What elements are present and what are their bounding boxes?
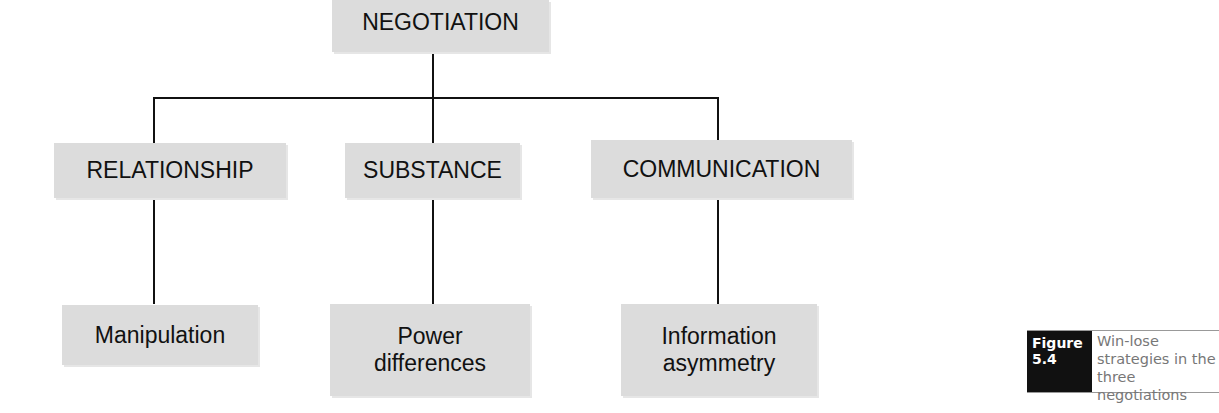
node-communication: COMMUNICATION (591, 140, 852, 198)
node-label: Power differences (355, 323, 505, 377)
node-label: SUBSTANCE (363, 157, 502, 184)
node-power-differences: Power differences (330, 304, 530, 396)
node-label: RELATIONSHIP (87, 157, 254, 184)
substance-connector-bottom (432, 198, 434, 304)
node-label: Information asymmetry (649, 323, 789, 377)
node-label: NEGOTIATION (362, 9, 519, 36)
communication-connector-top (717, 97, 719, 143)
horizontal-connector (153, 97, 719, 99)
node-information-asymmetry: Information asymmetry (621, 304, 817, 396)
node-manipulation: Manipulation (62, 305, 258, 365)
node-relationship: RELATIONSHIP (54, 143, 286, 198)
node-substance: SUBSTANCE (345, 143, 520, 198)
communication-connector-bottom (717, 198, 719, 304)
figure-label: Figure 5.4 (1027, 331, 1092, 392)
relationship-connector-bottom (153, 198, 155, 304)
node-label: COMMUNICATION (623, 156, 821, 183)
figure-caption: Figure 5.4 Win-lose strategies in the th… (1027, 330, 1219, 393)
figure-caption-text: Win-lose strategies in the three negotia… (1092, 331, 1219, 392)
relationship-connector-top (153, 97, 155, 143)
node-negotiation: NEGOTIATION (332, 0, 549, 52)
node-label: Manipulation (95, 322, 225, 349)
